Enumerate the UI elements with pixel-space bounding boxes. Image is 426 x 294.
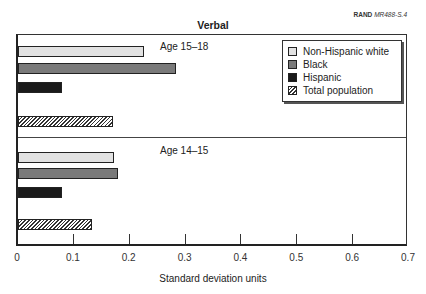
- x-tick-mark: [129, 234, 130, 244]
- legend-swatch-gray: [288, 60, 297, 69]
- bar-black-age-14-15: [18, 168, 118, 179]
- x-tick-label: 0.2: [122, 252, 136, 263]
- x-axis-label: Standard deviation units: [0, 273, 426, 284]
- x-tick-label: 0: [14, 252, 20, 263]
- bar-black-age-15-18: [18, 63, 176, 74]
- legend-item-non-hispanic-white: Non-Hispanic white: [288, 45, 389, 58]
- x-tick-label: 0.6: [345, 252, 359, 263]
- source-prefix: RAND: [354, 11, 373, 18]
- x-tick-label: 0.5: [289, 252, 303, 263]
- legend-swatch-hatched: [288, 86, 297, 95]
- x-tick-label: 0.3: [178, 252, 192, 263]
- x-tick-mark: [185, 234, 186, 244]
- chart-title-text: Verbal: [197, 19, 229, 31]
- bar-non-hispanic-white-age-14-15: [18, 152, 114, 163]
- source-label: RAND MR488-S.4: [354, 11, 407, 18]
- x-tick-mark: [240, 234, 241, 244]
- legend: Non-Hispanic white Black Hispanic Total …: [282, 40, 402, 102]
- source-id: MR488-S.4: [374, 11, 407, 18]
- legend-item-black: Black: [288, 58, 327, 71]
- panel-label-age-15-18: Age 15–18: [160, 41, 208, 52]
- panel-divider: [18, 137, 406, 138]
- legend-label: Hispanic: [303, 72, 341, 83]
- x-tick-mark: [73, 234, 74, 244]
- legend-swatch-light-gray: [288, 47, 297, 56]
- x-tick-mark: [296, 234, 297, 244]
- legend-item-total-population: Total population: [288, 84, 373, 97]
- bar-hispanic-age-15-18: [18, 82, 62, 93]
- legend-item-hispanic: Hispanic: [288, 71, 341, 84]
- panel-label-age-14-15: Age 14–15: [160, 145, 208, 156]
- x-tick-label: 0.7: [401, 252, 415, 263]
- x-tick-label: 0.1: [66, 252, 80, 263]
- legend-label: Black: [303, 59, 327, 70]
- chart-title: Verbal: [0, 19, 426, 31]
- legend-label: Total population: [303, 85, 373, 96]
- bar-non-hispanic-white-age-15-18: [18, 46, 144, 57]
- x-tick-label: 0.4: [233, 252, 247, 263]
- bar-hispanic-age-14-15: [18, 187, 62, 198]
- bar-total-population-age-15-18: [18, 116, 113, 127]
- legend-label: Non-Hispanic white: [303, 46, 389, 57]
- x-tick-mark: [352, 234, 353, 244]
- bar-total-population-age-14-15: [18, 219, 92, 230]
- legend-swatch-black: [288, 73, 297, 82]
